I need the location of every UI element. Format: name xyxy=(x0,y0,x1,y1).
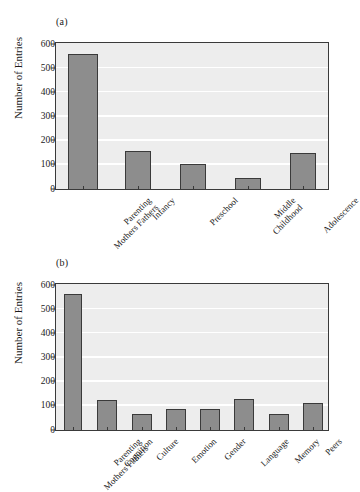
x-tick-mark xyxy=(244,427,245,430)
bar xyxy=(125,151,151,189)
x-tick-mark xyxy=(107,427,108,430)
chart-panel-b: (b) Number of Entries 010020030040050060… xyxy=(0,245,344,485)
x-tick-mark xyxy=(138,186,139,189)
x-tick-mark xyxy=(83,186,84,189)
gridline xyxy=(56,380,328,382)
x-tick-label: Adolescence xyxy=(321,196,360,235)
x-tick-mark xyxy=(73,427,74,430)
x-tick-mark xyxy=(176,427,177,430)
y-axis-a: 0100200300400500600 xyxy=(19,0,55,190)
x-tick-label-line: Preschool xyxy=(208,195,240,227)
x-tick-label: Emotion xyxy=(190,437,219,466)
x-tick-label: ParentingMothers Fathers xyxy=(106,196,161,251)
x-tick-label: Peers xyxy=(324,437,345,458)
plot-area-a xyxy=(55,42,329,190)
x-tick-label: Infancy xyxy=(151,196,177,222)
x-tick-label: MiddleChildhood xyxy=(264,196,305,237)
chart-panel-a: (a) Number of Entries 010020030040050060… xyxy=(0,0,344,245)
gridline xyxy=(56,332,328,334)
x-tick-mark xyxy=(210,427,211,430)
x-tick-mark xyxy=(279,427,280,430)
panel-label-a: (a) xyxy=(56,16,68,27)
x-tick-label-line: Adolescence xyxy=(320,195,360,235)
bar xyxy=(64,294,82,430)
panel-label-b: (b) xyxy=(56,257,68,268)
x-tick-mark xyxy=(303,186,304,189)
x-tick-label-line: Emotion xyxy=(189,436,218,465)
bar xyxy=(68,54,98,189)
x-tick-label: Gender xyxy=(223,437,249,463)
x-tick-mark xyxy=(142,427,143,430)
x-tick-mark xyxy=(248,186,249,189)
x-tick-label-line: Language xyxy=(259,436,291,468)
x-tick-label: Language xyxy=(260,437,292,469)
x-tick-label: Culture xyxy=(155,437,181,463)
y-axis-b: 0100200300400500600 xyxy=(19,245,55,431)
bar xyxy=(290,153,316,189)
x-tick-label: Memory xyxy=(293,437,322,466)
x-tick-label-line: Memory xyxy=(292,436,321,465)
plot-area-b xyxy=(55,283,329,431)
gridline xyxy=(56,308,328,310)
bar xyxy=(303,403,323,430)
x-tick-mark xyxy=(313,427,314,430)
bar xyxy=(97,400,117,430)
x-tick-mark xyxy=(193,186,194,189)
x-tick-label-line: Culture xyxy=(154,436,180,462)
x-tick-label-line: Peers xyxy=(323,436,344,457)
x-tick-label: Preschool xyxy=(208,196,240,228)
gridline xyxy=(56,356,328,358)
bar xyxy=(234,399,254,430)
x-tick-label-line: Gender xyxy=(222,436,248,462)
